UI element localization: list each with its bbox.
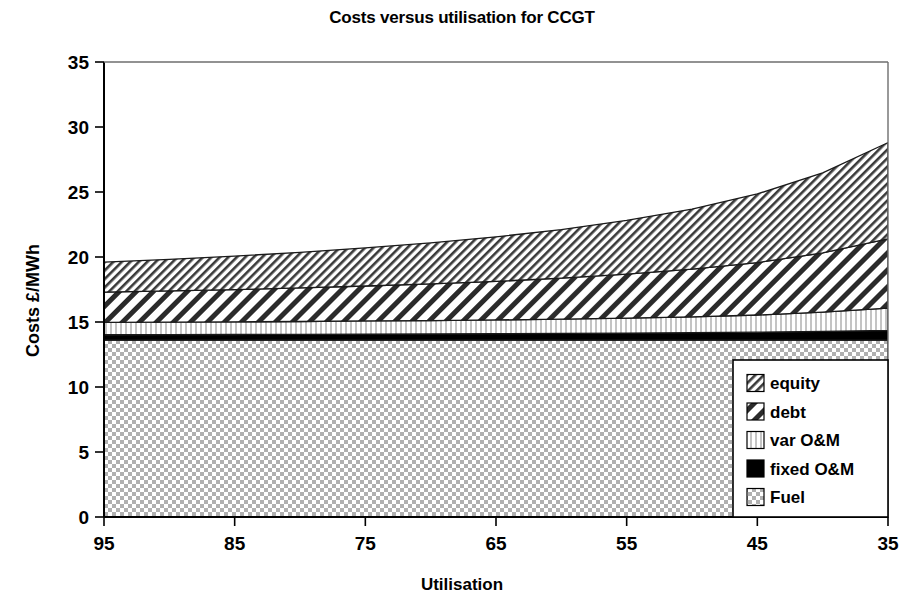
- y-tick-label: 35: [68, 52, 90, 73]
- x-tick-label: 75: [355, 533, 377, 554]
- y-tick-label: 30: [68, 117, 89, 138]
- legend-swatch-fuel: [747, 489, 764, 506]
- legend-swatch-debt: [747, 403, 764, 420]
- y-axis-ticks: 05101520253035: [68, 52, 104, 528]
- y-tick-label: 20: [68, 247, 89, 268]
- legend-label-equity: equity: [770, 374, 821, 393]
- legend-label-fuel: Fuel: [770, 488, 805, 507]
- y-tick-label: 0: [78, 507, 89, 528]
- legend-swatch-fixed-o-m: [747, 460, 764, 477]
- y-tick-label: 25: [68, 182, 90, 203]
- legend-swatch-equity: [747, 375, 764, 392]
- x-tick-label: 45: [747, 533, 769, 554]
- chart-plot-svg: 05101520253035 95857565554535 equitydebt…: [0, 0, 924, 614]
- legend-label-fixed-o-m: fixed O&M: [770, 460, 854, 479]
- legend-label-debt: debt: [770, 403, 806, 422]
- x-tick-label: 85: [224, 533, 246, 554]
- y-tick-label: 10: [68, 377, 89, 398]
- x-tick-label: 95: [93, 533, 115, 554]
- x-tick-label: 55: [616, 533, 638, 554]
- y-tick-label: 5: [78, 442, 89, 463]
- chart-container: Costs versus utilisation for CCGT Costs …: [0, 0, 924, 614]
- chart-legend: equitydebtvar O&Mfixed O&MFuel: [733, 360, 888, 517]
- x-axis-ticks: 95857565554535: [93, 517, 899, 554]
- legend-swatch-var-o-m: [747, 432, 764, 449]
- legend-label-var-o-m: var O&M: [770, 431, 840, 450]
- y-tick-label: 15: [68, 312, 90, 333]
- x-tick-label: 65: [485, 533, 507, 554]
- x-tick-label: 35: [877, 533, 899, 554]
